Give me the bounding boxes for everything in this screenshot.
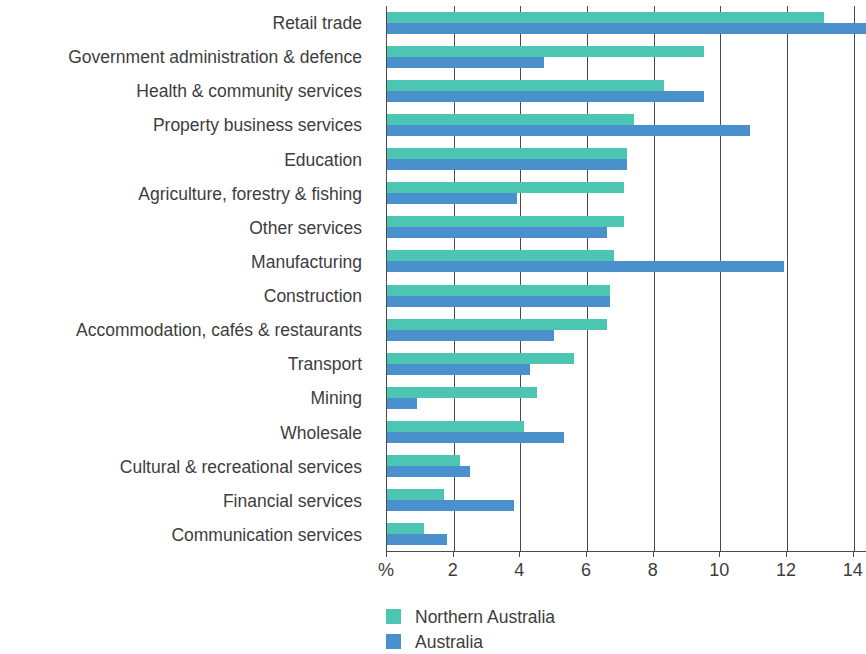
legend-item[interactable]: Northern Australia [386,604,786,629]
category-label: Health & community services [0,82,362,100]
x-axis: %2468101214 [386,552,866,586]
category-label: Financial services [0,492,362,510]
bar-0 [387,387,537,398]
category-label: Wholesale [0,424,362,442]
legend-item[interactable]: Australia [386,629,786,654]
category-label: Accommodation, cafés & restaurants [0,321,362,339]
x-tick-mark [653,552,654,557]
category-label: Cultural & recreational services [0,458,362,476]
bar-1 [387,227,607,238]
bar-0 [387,114,634,125]
bar-0 [387,80,664,91]
bar-0 [387,353,574,364]
bar-1 [387,23,866,34]
bar-1 [387,125,750,136]
bar-1 [387,330,554,341]
bar-1 [387,398,417,409]
x-tick-label: 2 [448,560,458,580]
bar-0 [387,489,444,500]
category-axis: Retail tradeGovernment administration & … [0,0,374,552]
x-tick-label: 12 [776,560,796,580]
category-label: Transport [0,355,362,373]
x-tick-label: 4 [514,560,524,580]
bar-0 [387,216,624,227]
plot-area [386,6,866,552]
bar-group [387,353,866,376]
bar-group [387,216,866,239]
category-label: Education [0,151,362,169]
bar-group [387,148,866,171]
bar-0 [387,319,607,330]
bar-0 [387,46,704,57]
category-label: Government administration & defence [0,48,362,66]
bar-1 [387,534,447,545]
category-label: Property business services [0,116,362,134]
bar-0 [387,285,610,296]
category-label: Construction [0,287,362,305]
bar-1 [387,57,544,68]
bar-1 [387,296,610,307]
x-tick-mark [719,552,720,557]
bar-0 [387,523,424,534]
x-tick-mark [786,552,787,557]
bar-1 [387,432,564,443]
bar-group [387,489,866,512]
bar-0 [387,182,624,193]
bar-1 [387,364,530,375]
legend-swatch-icon [386,634,401,649]
bar-1 [387,159,627,170]
x-tick-label: 10 [709,560,729,580]
bar-group [387,455,866,478]
bar-group [387,319,866,342]
bar-0 [387,421,524,432]
bar-group [387,114,866,137]
category-label: Retail trade [0,14,362,32]
bar-group [387,421,866,444]
bar-group [387,46,866,69]
x-tick-label: 6 [581,560,591,580]
bar-0 [387,250,614,261]
category-label: Agriculture, forestry & fishing [0,185,362,203]
legend-label: Northern Australia [415,607,555,627]
bar-0 [387,148,627,159]
category-label: Other services [0,219,362,237]
chart-legend: Northern AustraliaAustralia [386,604,786,654]
x-axis-unit-label: % [378,560,394,580]
bar-1 [387,261,784,272]
x-tick-mark [853,552,854,557]
legend-swatch-icon [386,609,401,624]
bar-chart: Retail tradeGovernment administration & … [0,0,866,654]
x-tick-mark [519,552,520,557]
bar-1 [387,91,704,102]
bar-1 [387,193,517,204]
x-tick-mark [586,552,587,557]
x-tick-mark [386,552,387,557]
bar-0 [387,12,824,23]
category-label: Mining [0,389,362,407]
bar-1 [387,466,470,477]
bar-group [387,250,866,273]
x-tick-label: 14 [843,560,863,580]
bar-group [387,523,866,546]
legend-label: Australia [415,632,483,652]
x-tick-mark [453,552,454,557]
bar-0 [387,455,460,466]
bar-group [387,12,866,35]
bar-group [387,285,866,308]
x-tick-label: 8 [648,560,658,580]
bar-group [387,80,866,103]
bar-group [387,387,866,410]
bar-1 [387,500,514,511]
bar-group [387,182,866,205]
category-label: Manufacturing [0,253,362,271]
category-label: Communication services [0,526,362,544]
